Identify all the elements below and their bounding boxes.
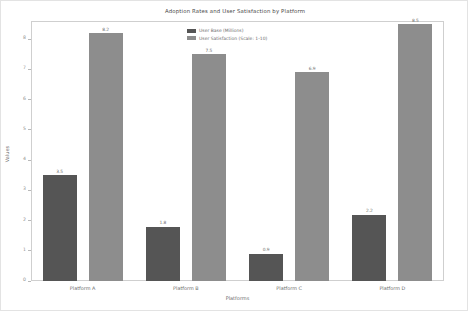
bar-value-label: 8.5 — [412, 18, 419, 23]
y-tick-label: 5 — [23, 126, 26, 131]
legend-item[interactable]: User Satisfaction (Scale: 1-10) — [187, 36, 267, 41]
y-tick-label: 3 — [23, 186, 26, 191]
chart-legend: User Base (Millions)User Satisfaction (S… — [187, 28, 267, 41]
bar-value-label: 8.2 — [102, 27, 109, 32]
bar-value-label: 6.9 — [309, 66, 316, 71]
y-tick-label: 8 — [23, 35, 26, 40]
x-tick-label: Platform C — [276, 285, 302, 291]
legend-swatch — [187, 29, 196, 33]
x-tick-label: Platform B — [173, 285, 199, 291]
y-tick-label: 2 — [23, 217, 26, 222]
bar[interactable]: 1.8 — [146, 227, 180, 281]
chart-figure: Adoption Rates and User Satisfaction by … — [0, 0, 468, 311]
bar-group: 1.87.5 — [146, 21, 226, 281]
bar-value-label: 1.8 — [159, 220, 166, 225]
y-tick-label: 4 — [23, 156, 26, 161]
plot-area: 012345678 3.58.21.87.50.96.92.28.5 — [31, 21, 444, 281]
bar[interactable]: 0.9 — [249, 254, 283, 281]
bar-value-label: 2.2 — [366, 208, 373, 213]
legend-item[interactable]: User Base (Millions) — [187, 28, 267, 33]
y-tick-mark — [28, 160, 31, 161]
y-tick-mark — [28, 39, 31, 40]
y-tick-mark — [28, 281, 31, 282]
y-tick-mark — [28, 129, 31, 130]
legend-label: User Satisfaction (Scale: 1-10) — [199, 36, 267, 41]
y-tick-mark — [28, 99, 31, 100]
y-tick-label: 6 — [23, 96, 26, 101]
y-tick-label: 7 — [23, 65, 26, 70]
x-tick-label: Platform D — [379, 285, 405, 291]
bar-group: 3.58.2 — [43, 21, 123, 281]
bar-group: 2.28.5 — [352, 21, 432, 281]
bar-value-label: 3.5 — [56, 169, 63, 174]
bar[interactable]: 6.9 — [295, 72, 329, 281]
y-tick-mark — [28, 69, 31, 70]
chart-title: Adoption Rates and User Satisfaction by … — [1, 8, 468, 14]
x-tick-label: Platform A — [70, 285, 96, 291]
legend-label: User Base (Millions) — [199, 28, 243, 33]
bar[interactable]: 8.5 — [398, 24, 432, 281]
x-axis-title: Platforms — [31, 295, 444, 301]
bar[interactable]: 7.5 — [192, 54, 226, 281]
y-tick-mark — [28, 250, 31, 251]
y-axis-title: Values — [4, 146, 10, 162]
bar-value-label: 0.9 — [263, 247, 270, 252]
bar-value-label: 7.5 — [205, 48, 212, 53]
y-tick-mark — [28, 190, 31, 191]
bar-group: 0.96.9 — [249, 21, 329, 281]
y-tick-label: 0 — [23, 277, 26, 282]
bar[interactable]: 2.2 — [352, 215, 386, 282]
bar[interactable]: 3.5 — [43, 175, 77, 281]
bar[interactable]: 8.2 — [89, 33, 123, 281]
y-tick-label: 1 — [23, 247, 26, 252]
y-tick-mark — [28, 220, 31, 221]
legend-swatch — [187, 36, 196, 40]
